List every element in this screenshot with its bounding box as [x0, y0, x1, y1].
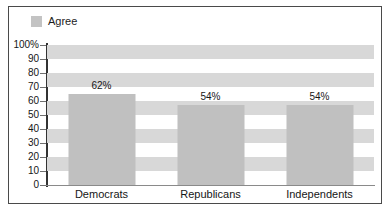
chart-legend: Agree — [31, 16, 77, 27]
bar-group: 62% — [47, 45, 156, 185]
y-axis-tick-label: 100% — [13, 40, 39, 50]
bar-value-label: 54% — [200, 91, 220, 102]
bar-value-label: 62% — [91, 80, 111, 91]
legend-label-agree: Agree — [48, 16, 77, 27]
bar-group: 54% — [265, 45, 374, 185]
y-axis-tick-label: 90 — [28, 54, 39, 64]
x-axis-label-independents: Independents — [286, 188, 353, 201]
x-axis-labels: DemocratsRepublicansIndependents — [47, 188, 374, 204]
bar-series-agree: 62%54%54% — [47, 45, 374, 185]
chart-frame: Agree 0102030405060708090100% 62%54%54% … — [8, 6, 382, 204]
plot-area: 62%54%54% — [47, 45, 374, 185]
bar-group: 54% — [156, 45, 265, 185]
y-axis-tick-label: 80 — [28, 68, 39, 78]
bar-democrats[interactable] — [68, 94, 135, 185]
x-axis-line — [46, 185, 375, 186]
y-axis-tick-label: 20 — [28, 152, 39, 162]
y-axis-labels: 0102030405060708090100% — [9, 45, 39, 185]
y-axis-tick-label: 50 — [28, 110, 39, 120]
x-axis-label-republicans: Republicans — [180, 188, 241, 201]
y-axis-tick-label: 60 — [28, 96, 39, 106]
y-axis-tick-label: 0 — [33, 180, 39, 190]
bar-independents[interactable] — [286, 105, 353, 185]
legend-swatch-agree-icon — [31, 16, 42, 27]
y-axis-tick-label: 30 — [28, 138, 39, 148]
bar-republicans[interactable] — [177, 105, 244, 185]
y-axis-tick-label: 70 — [28, 82, 39, 92]
y-axis-tick-label: 40 — [28, 124, 39, 134]
y-axis-tick-label: 10 — [28, 166, 39, 176]
bar-value-label: 54% — [309, 91, 329, 102]
x-axis-label-democrats: Democrats — [75, 188, 128, 201]
